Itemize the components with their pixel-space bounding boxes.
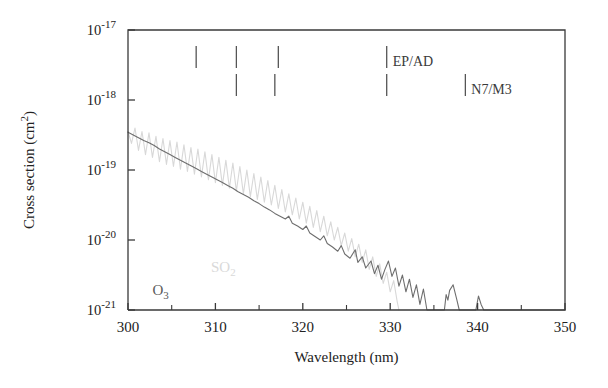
annotation-label: N7/M3 bbox=[471, 82, 511, 97]
x-tick-label: 350 bbox=[554, 319, 577, 335]
figure-container: EP/ADN7/M3 SO2O330031032033034035010-171… bbox=[0, 0, 608, 388]
annotation-label: EP/AD bbox=[393, 54, 433, 69]
x-axis-title: Wavelength (nm) bbox=[294, 349, 398, 366]
cross-section-chart: EP/ADN7/M3 SO2O330031032033034035010-171… bbox=[0, 0, 608, 388]
x-tick-label: 300 bbox=[117, 319, 140, 335]
x-tick-label: 310 bbox=[204, 319, 227, 335]
x-tick-label: 340 bbox=[466, 319, 489, 335]
x-tick-label: 330 bbox=[379, 319, 402, 335]
x-tick-label: 320 bbox=[292, 319, 315, 335]
y-axis-title: Cross section (cm2) bbox=[18, 111, 38, 229]
